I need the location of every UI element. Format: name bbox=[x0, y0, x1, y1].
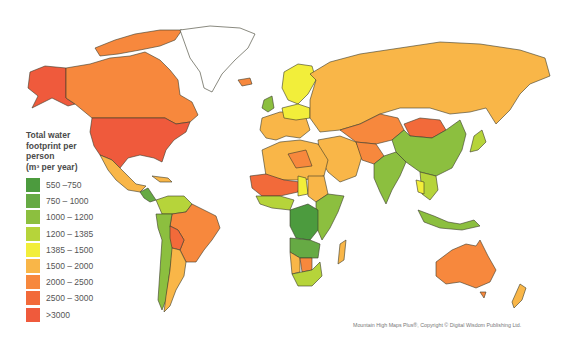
legend-title-line: person bbox=[26, 151, 126, 162]
region-iceland bbox=[238, 78, 252, 86]
legend-label: 750 – 1000 bbox=[46, 196, 89, 206]
region-japan bbox=[470, 130, 486, 152]
legend-title: Total water footprint per person (m³ per… bbox=[26, 130, 126, 172]
legend-item: 2000 – 2500 bbox=[26, 274, 126, 290]
legend-swatch bbox=[26, 291, 40, 305]
legend-title-line: (m³ per year) bbox=[26, 162, 126, 173]
region-central-africa bbox=[290, 204, 318, 240]
legend-title-line: footprint per bbox=[26, 141, 126, 152]
legend-swatch bbox=[26, 227, 40, 241]
region-east-africa bbox=[316, 194, 344, 240]
legend-label: 1000 – 1200 bbox=[46, 212, 93, 222]
region-india bbox=[374, 152, 406, 204]
legend-label: 1385 – 1500 bbox=[46, 245, 93, 255]
region-canada bbox=[66, 52, 198, 124]
legend-label: 1500 – 2000 bbox=[46, 261, 93, 271]
legend-label: 2000 – 2500 bbox=[46, 277, 93, 287]
region-new-zealand bbox=[512, 284, 526, 308]
legend-items: 550 –750 750 – 1000 1000 – 1200 1200 – 1… bbox=[26, 177, 126, 323]
legend-label: 2500 – 3000 bbox=[46, 293, 93, 303]
region-australia bbox=[436, 240, 496, 288]
legend-swatch bbox=[26, 194, 40, 208]
region-russia bbox=[310, 42, 550, 132]
region-central-europe bbox=[282, 104, 310, 120]
legend: Total water footprint per person (m³ per… bbox=[26, 130, 126, 323]
legend-swatch bbox=[26, 308, 40, 322]
region-uk bbox=[262, 96, 274, 112]
legend-title-line: Total water bbox=[26, 130, 126, 141]
legend-label: >3000 bbox=[46, 310, 70, 320]
legend-item: 1200 – 1385 bbox=[26, 226, 126, 242]
region-thailand bbox=[416, 180, 424, 194]
legend-item: 1500 – 2000 bbox=[26, 258, 126, 274]
legend-label: 1200 – 1385 bbox=[46, 229, 93, 239]
legend-swatch bbox=[26, 275, 40, 289]
legend-item: 1385 – 1500 bbox=[26, 242, 126, 258]
region-caribbean bbox=[152, 176, 172, 182]
region-madagascar bbox=[338, 240, 346, 264]
legend-item: 2500 – 3000 bbox=[26, 290, 126, 306]
legend-item: 750 – 1000 bbox=[26, 193, 126, 209]
legend-swatch bbox=[26, 210, 40, 224]
region-canada-arctic bbox=[95, 30, 182, 56]
legend-swatch bbox=[26, 259, 40, 273]
region-botswana bbox=[300, 258, 312, 272]
legend-item: 1000 – 1200 bbox=[26, 209, 126, 225]
legend-swatch bbox=[26, 178, 40, 192]
map-credit: Mountain High Maps Plus®, Copyright © Di… bbox=[353, 322, 521, 328]
region-tasmania bbox=[480, 292, 486, 298]
legend-item: >3000 bbox=[26, 307, 126, 323]
legend-swatch bbox=[26, 243, 40, 257]
region-west-africa-coast bbox=[256, 196, 294, 210]
legend-item: 550 –750 bbox=[26, 177, 126, 193]
legend-label: 550 –750 bbox=[46, 180, 81, 190]
region-central-america bbox=[140, 188, 156, 202]
region-indonesia bbox=[418, 210, 480, 230]
